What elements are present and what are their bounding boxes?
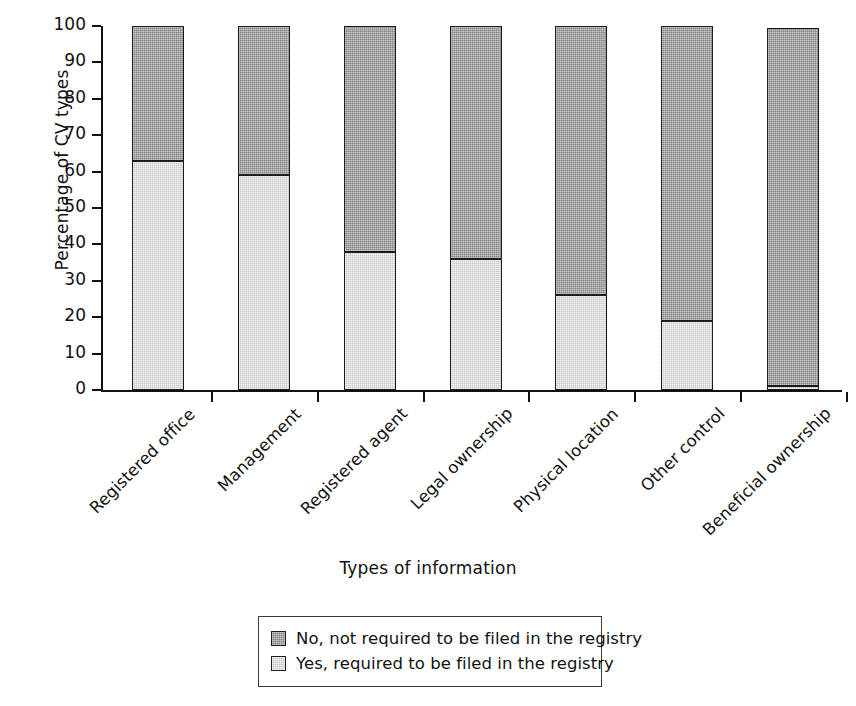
y-axis-tick-90: 90 [92,61,101,63]
x-axis-tick [211,392,213,402]
bar-beneficial-ownership [767,28,819,390]
y-axis-tick-label: 40 [46,232,86,252]
y-axis-tick-label: 30 [46,269,86,289]
y-axis-tick-0: 0 [92,389,101,391]
y-axis-tick-100: 100 [92,25,101,27]
legend: No, not required to be filed in the regi… [258,616,602,687]
y-axis-tick-60: 60 [92,171,101,173]
bar-other-control [661,26,713,390]
y-axis-tick-10: 10 [92,353,101,355]
x-axis-label-registered-office: Registered office [86,404,199,517]
bar-segment-yes [344,252,396,390]
legend-item[interactable]: No, not required to be filed in the regi… [271,626,589,651]
y-axis-tick-label: 10 [46,342,86,362]
x-axis-tick [528,392,530,402]
y-axis-tick-50: 50 [92,207,101,209]
bar-segment-yes [767,386,819,390]
y-axis-tick-40: 40 [92,243,101,245]
bar-registered-office [132,26,184,390]
x-axis-tick [846,392,848,402]
bar-segment-no [132,26,184,161]
plot-area: 0102030405060708090100 [101,26,842,391]
bar-segment-no [344,26,396,252]
y-axis-tick-label: 100 [46,14,86,34]
legend-label: No, not required to be filed in the regi… [296,629,642,648]
bar-segment-no [767,28,819,387]
y-axis-tick-label: 50 [46,196,86,216]
legend-swatch [271,656,286,671]
x-axis-label-management: Management [214,404,305,495]
x-axis-label-physical-location: Physical location [510,404,622,516]
y-axis-tick-label: 60 [46,160,86,180]
x-axis-label-registered-agent: Registered agent [297,404,411,518]
bar-segment-yes [450,259,502,390]
x-axis-tick [740,392,742,402]
legend-label: Yes, required to be filed in the registr… [296,654,614,673]
bar-segment-yes [661,321,713,390]
x-axis-tick [634,392,636,402]
y-axis-tick-label: 80 [46,87,86,107]
bar-physical-location [555,26,607,390]
x-axis-tick [423,392,425,402]
y-axis-tick-70: 70 [92,134,101,136]
bar-legal-ownership [450,26,502,390]
y-axis-tick-label: 90 [46,50,86,70]
bar-segment-yes [132,161,184,390]
y-axis-tick-label: 20 [46,305,86,325]
x-axis-label-other-control: Other control [637,404,729,496]
y-axis-tick-label: 0 [46,378,86,398]
bar-registered-agent [344,26,396,390]
bar-segment-no [555,26,607,295]
x-axis-tick [317,392,319,402]
bar-management [238,26,290,390]
y-axis-tick-80: 80 [92,98,101,100]
stacked-bar-chart: Percentage of CV types 01020304050607080… [0,0,856,706]
bar-segment-no [661,26,713,321]
y-axis-line [101,26,103,392]
x-axis-title: Types of information [0,558,856,578]
legend-item[interactable]: Yes, required to be filed in the registr… [271,651,589,676]
y-axis-tick-20: 20 [92,316,101,318]
bar-segment-yes [238,175,290,390]
legend-swatch [271,631,286,646]
x-axis-label-legal-ownership: Legal ownership [407,404,517,514]
bar-segment-yes [555,295,607,390]
bar-segment-no [450,26,502,259]
y-axis-tick-label: 70 [46,123,86,143]
y-axis-tick-30: 30 [92,280,101,282]
bar-segment-no [238,26,290,175]
